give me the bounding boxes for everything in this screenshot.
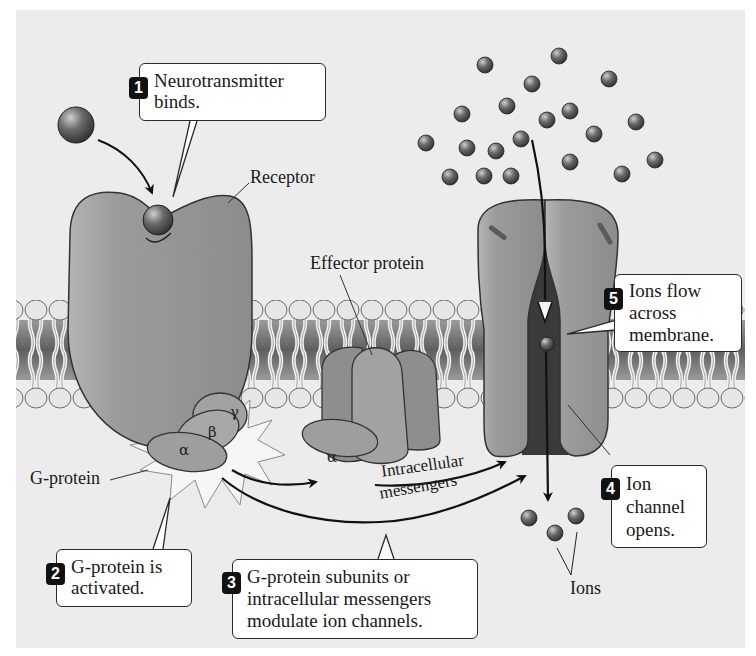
step-1-text: Neurotransmitter binds. [154,70,284,112]
free-neurotransmitter [58,107,94,143]
alpha-subunit-label: α [179,441,189,459]
g-protein-label: G-protein [30,468,100,489]
step-3-badge: 3 [222,572,241,594]
step-2-text: G-protein is activated. [71,556,162,598]
callout-step-3: 3 G-protein subunits or intracellular me… [232,559,478,639]
bound-neurotransmitter [143,205,173,235]
callout-2-tail [153,498,170,549]
step-1-badge: 1 [129,77,148,99]
step-2-badge: 2 [46,563,65,585]
callout-3-tail [378,535,394,559]
step-3-text: G-protein subunits or intracellular mess… [247,566,431,632]
beta-subunit-label: β [208,423,217,441]
ions-label: Ions [570,578,601,599]
callout-step-4: 4 Ion channel opens. [611,465,707,548]
ion-in-channel [540,337,554,351]
receptor-label: Receptor [250,167,315,188]
intracellular-ions [521,508,584,575]
extracellular-ions [418,48,663,185]
step-4-badge: 4 [601,478,620,500]
callout-step-5: 5 Ions flow across membrane. [614,274,742,352]
step-5-text: Ions flow across membrane. [629,280,714,346]
callout-step-2: 2 G-protein is activated. [56,549,192,607]
step-5-badge: 5 [604,288,623,310]
effector-protein-label: Effector protein [310,253,424,274]
binding-arrow [98,140,152,193]
callout-step-1: 1 Neurotransmitter binds. [139,63,326,121]
step-4-text: Ion channel opens. [626,472,685,541]
effector-alpha-label: α [327,448,337,466]
callout-1-tail [173,121,197,197]
gamma-subunit-label: γ [230,403,239,421]
